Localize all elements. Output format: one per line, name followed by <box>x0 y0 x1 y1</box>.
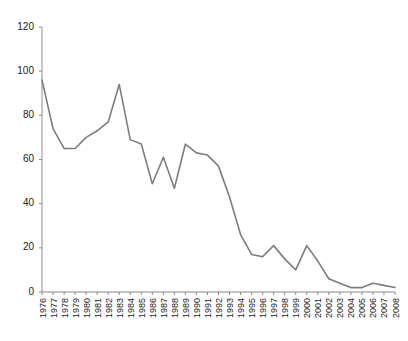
x-tick-label: 1988 <box>170 298 180 318</box>
x-tick-label: 1987 <box>159 298 169 318</box>
x-tick-label: 1994 <box>236 298 246 318</box>
x-tick-label: 1978 <box>60 298 70 318</box>
x-tick-label: 2006 <box>368 298 378 318</box>
x-tick-label: 1981 <box>93 298 103 318</box>
x-tick-label: 2003 <box>335 298 345 318</box>
chart-canvas: 020406080100120 197619771978197919801981… <box>0 0 408 341</box>
line-chart: 020406080100120 197619771978197919801981… <box>0 0 408 341</box>
x-tick-label: 1983 <box>115 298 125 318</box>
y-tick-label: 20 <box>23 241 35 252</box>
x-tick-label: 1979 <box>71 298 81 318</box>
series-line <box>42 80 395 288</box>
x-tick-label: 1977 <box>49 298 59 318</box>
x-tick-label: 1999 <box>291 298 301 318</box>
x-tick-label: 1985 <box>137 298 147 318</box>
x-tick-label: 1976 <box>38 298 48 318</box>
x-tick-label: 1990 <box>192 298 202 318</box>
y-tick-label: 100 <box>17 65 34 76</box>
y-tick-label: 0 <box>28 286 34 297</box>
y-axis: 020406080100120 <box>17 21 42 297</box>
x-tick-label: 1992 <box>214 298 224 318</box>
y-tick-label: 40 <box>23 197 35 208</box>
x-tick-label: 1996 <box>258 298 268 318</box>
y-tick-label: 120 <box>17 21 34 32</box>
x-tick-label: 2007 <box>379 298 389 318</box>
x-tick-label: 1982 <box>104 298 114 318</box>
x-tick-label: 1993 <box>225 298 235 318</box>
x-tick-label: 1986 <box>148 298 158 318</box>
x-tick-label: 2005 <box>357 298 367 318</box>
x-tick-label: 2002 <box>324 298 334 318</box>
x-tick-label: 1995 <box>247 298 257 318</box>
x-tick-label: 2008 <box>391 298 401 318</box>
x-tick-label: 1980 <box>82 298 92 318</box>
x-tick-label: 1984 <box>126 298 136 318</box>
data-series-group <box>42 80 395 288</box>
x-tick-label: 1998 <box>280 298 290 318</box>
y-tick-label: 80 <box>23 109 35 120</box>
x-tick-label: 1997 <box>269 298 279 318</box>
x-tick-label: 2004 <box>346 298 356 318</box>
x-tick-label: 1991 <box>203 298 213 318</box>
y-tick-label: 60 <box>23 153 35 164</box>
x-axis: 1976197719781979198019811982198319841985… <box>38 292 401 318</box>
x-tick-label: 2000 <box>302 298 312 318</box>
x-tick-label: 1989 <box>181 298 191 318</box>
x-tick-label: 2001 <box>313 298 323 318</box>
